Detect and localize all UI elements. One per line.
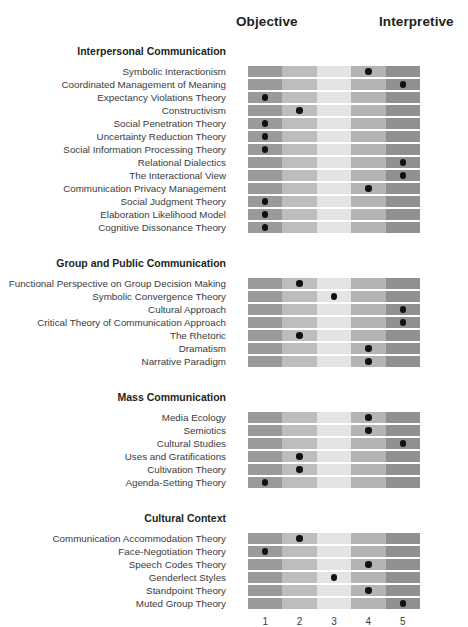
theory-row[interactable]: Constructivism <box>0 104 468 117</box>
theory-row[interactable]: Cultivation Theory <box>0 463 468 476</box>
gradient-strip <box>248 412 420 423</box>
scale-cell-5 <box>386 278 420 289</box>
scale-cell-4 <box>351 131 385 142</box>
scale-cell-2 <box>282 131 316 142</box>
theory-group: Group and Public CommunicationFunctional… <box>0 254 468 368</box>
scale-cell-2 <box>282 196 316 207</box>
scale-cell-2 <box>282 343 316 354</box>
scale-cell-4 <box>351 451 385 462</box>
theory-row[interactable]: Social Information Processing Theory <box>0 143 468 156</box>
theory-row[interactable]: Relational Dialectics <box>0 156 468 169</box>
scale-cell-3 <box>317 533 351 544</box>
theory-row[interactable]: Genderlect Styles <box>0 571 468 584</box>
scale-cell-3 <box>317 170 351 181</box>
scale-cell-1 <box>248 451 282 462</box>
theory-row[interactable]: Semiotics <box>0 424 468 437</box>
position-marker-dot <box>331 293 337 299</box>
gradient-strip <box>248 157 420 168</box>
gradient-strip <box>248 66 420 77</box>
theory-row[interactable]: Communication Accommodation Theory <box>0 532 468 545</box>
scale-cell-2 <box>282 170 316 181</box>
scale-cell-5 <box>386 585 420 596</box>
scale-cell-1 <box>248 317 282 328</box>
theory-row[interactable]: Standpoint Theory <box>0 584 468 597</box>
theory-row[interactable]: Narrative Paradigm <box>0 355 468 368</box>
gradient-strip <box>248 598 420 609</box>
scale-cell-1 <box>248 343 282 354</box>
position-marker-dot <box>400 440 406 446</box>
scale-cell-4 <box>351 157 385 168</box>
scale-cell-4 <box>351 118 385 129</box>
scale-cell-1 <box>248 533 282 544</box>
theory-row[interactable]: Social Penetration Theory <box>0 117 468 130</box>
theory-row[interactable]: Elaboration Likelihood Model <box>0 208 468 221</box>
scale-cell-4 <box>351 222 385 233</box>
theory-row[interactable]: Media Ecology <box>0 411 468 424</box>
scale-cell-2 <box>282 438 316 449</box>
theory-row[interactable]: Coordinated Management of Meaning <box>0 78 468 91</box>
theory-row[interactable]: Symbolic Convergence Theory <box>0 290 468 303</box>
scale-cell-5 <box>386 92 420 103</box>
scale-cell-5 <box>386 170 420 181</box>
theory-row[interactable]: Cognitive Dissonance Theory <box>0 221 468 234</box>
theory-label: Cultural Approach <box>0 303 234 316</box>
theory-row[interactable]: Face-Negotiation Theory <box>0 545 468 558</box>
gradient-strip <box>248 196 420 207</box>
position-marker-dot <box>262 211 268 217</box>
scale-cell-5 <box>386 598 420 609</box>
scale-cell-2 <box>282 477 316 488</box>
theory-row[interactable]: Critical Theory of Communication Approac… <box>0 316 468 329</box>
gradient-strip <box>248 572 420 583</box>
theory-row[interactable]: Uses and Gratifications <box>0 450 468 463</box>
theory-row[interactable]: Social Judgment Theory <box>0 195 468 208</box>
theory-row[interactable]: Speech Codes Theory <box>0 558 468 571</box>
scale-cell-1 <box>248 464 282 475</box>
scale-cell-5 <box>386 79 420 90</box>
theory-row[interactable]: Dramatism <box>0 342 468 355</box>
theory-row[interactable]: Muted Group Theory <box>0 597 468 610</box>
theory-row[interactable]: Expectancy Violations Theory <box>0 91 468 104</box>
theory-row[interactable]: The Interactional View <box>0 169 468 182</box>
scale-cell-4 <box>351 330 385 341</box>
gradient-strip <box>248 330 420 341</box>
theory-row[interactable]: Agenda-Setting Theory <box>0 476 468 489</box>
theory-row[interactable]: The Rhetoric <box>0 329 468 342</box>
scale-cell-5 <box>386 572 420 583</box>
scale-cell-5 <box>386 317 420 328</box>
scale-cell-1 <box>248 183 282 194</box>
scale-cell-1 <box>248 157 282 168</box>
theory-label: Media Ecology <box>0 411 234 424</box>
gradient-strip <box>248 79 420 90</box>
scale-cell-4 <box>351 317 385 328</box>
group-gap <box>0 489 468 509</box>
theory-label: Critical Theory of Communication Approac… <box>0 316 234 329</box>
scale-cell-1 <box>248 425 282 436</box>
scale-cell-3 <box>317 572 351 583</box>
scale-cell-1 <box>248 356 282 367</box>
gradient-strip <box>248 356 420 367</box>
scale-cell-3 <box>317 66 351 77</box>
theory-label: Social Information Processing Theory <box>0 143 234 156</box>
position-marker-dot <box>365 427 371 433</box>
scale-cell-2 <box>282 546 316 557</box>
theory-row[interactable]: Communication Privacy Management <box>0 182 468 195</box>
scale-cell-3 <box>317 304 351 315</box>
scale-cell-1 <box>248 477 282 488</box>
position-marker-dot <box>262 198 268 204</box>
theory-row[interactable]: Cultural Approach <box>0 303 468 316</box>
theory-label: The Interactional View <box>0 169 234 182</box>
position-marker-dot <box>365 561 371 567</box>
theory-group: Mass CommunicationMedia EcologySemiotics… <box>0 388 468 489</box>
theory-row[interactable]: Functional Perspective on Group Decision… <box>0 277 468 290</box>
group-gap <box>0 234 468 254</box>
scale-cell-4 <box>351 598 385 609</box>
group-title: Cultural Context <box>0 509 234 527</box>
theory-row[interactable]: Uncertainty Reduction Theory <box>0 130 468 143</box>
x-tick-3: 3 <box>317 616 351 627</box>
theory-row[interactable]: Cultural Studies <box>0 437 468 450</box>
theory-label: Cultivation Theory <box>0 463 234 476</box>
gradient-strip <box>248 131 420 142</box>
theory-row[interactable]: Symbolic Interactionism <box>0 65 468 78</box>
scale-cell-4 <box>351 66 385 77</box>
scale-cell-3 <box>317 438 351 449</box>
